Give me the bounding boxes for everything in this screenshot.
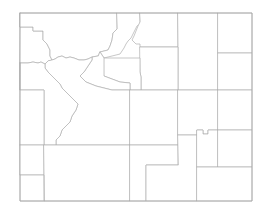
map-svg xyxy=(0,0,271,213)
county-weston[interactable] xyxy=(218,53,252,90)
county-uinta[interactable] xyxy=(20,145,44,175)
county-goshen[interactable] xyxy=(218,130,252,167)
wyoming-county-map xyxy=(0,0,271,213)
county-crook[interactable] xyxy=(218,13,252,53)
county-platte[interactable] xyxy=(197,130,218,167)
county-laramie[interactable] xyxy=(197,167,252,201)
county-niobrara[interactable] xyxy=(218,90,252,130)
county-natrona[interactable] xyxy=(130,90,178,145)
counties-layer xyxy=(20,13,252,201)
county-campbell[interactable] xyxy=(178,13,218,90)
county-johnson[interactable] xyxy=(140,47,178,90)
county-converse[interactable] xyxy=(178,90,218,135)
